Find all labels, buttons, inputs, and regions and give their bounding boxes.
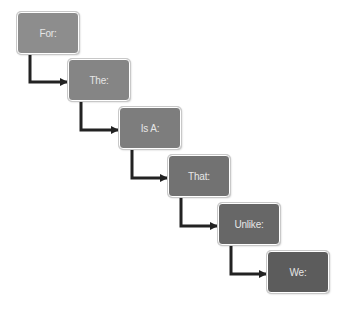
step-box-6: We: (267, 251, 329, 293)
elbow-arrow (231, 245, 266, 274)
step-box-4: That: (168, 155, 230, 197)
elbow-arrow (181, 197, 217, 226)
step-label: Unlike: (234, 219, 263, 230)
step-label: For: (40, 28, 57, 39)
elbow-arrow (132, 149, 167, 178)
elbow-arrow (30, 54, 67, 82)
step-label: Is A: (141, 123, 159, 134)
step-label: We: (290, 267, 307, 278)
elbow-arrow (81, 101, 118, 130)
step-box-2: The: (68, 59, 130, 101)
staircase-diagram: For: The: Is A: That: Unlike: We: (0, 0, 345, 314)
step-label: That: (188, 171, 210, 182)
step-box-3: Is A: (119, 107, 181, 149)
step-box-1: For: (17, 12, 79, 54)
step-box-5: Unlike: (218, 203, 280, 245)
step-label: The: (89, 75, 108, 86)
